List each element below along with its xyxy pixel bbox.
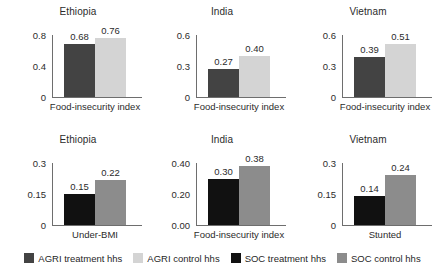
bar: [239, 166, 270, 225]
bar: [64, 194, 95, 225]
panel-title: Vietnam: [298, 134, 438, 145]
legend-item[interactable]: AGRI treatment hhs: [24, 253, 122, 264]
bar: [354, 57, 385, 97]
legend-item[interactable]: SOC control hhs: [337, 253, 421, 264]
y-axis-line: [52, 163, 53, 225]
bar: [385, 175, 416, 225]
chart-panel: Ethiopia00.40.80.680.76Food-insecurity i…: [8, 6, 148, 118]
bar-slot: [239, 163, 270, 225]
y-tick-label: 0.3: [152, 61, 190, 72]
bar: [239, 56, 270, 97]
bar-slot: [64, 35, 95, 97]
bar-value-label: 0.51: [391, 31, 410, 42]
x-axis-label: Under-BMI: [26, 229, 164, 240]
y-tick-label: 0.6: [298, 30, 336, 41]
chart-legend: AGRI treatment hhsAGRI control hhsSOC tr…: [0, 250, 445, 266]
y-axis-line: [52, 35, 53, 97]
x-axis-label: Food-insecurity index: [316, 101, 445, 112]
bar-value-label: 0.22: [101, 167, 120, 178]
legend-swatch-icon: [337, 253, 347, 263]
x-axis-line: [52, 225, 142, 226]
x-axis-label: Stunted: [316, 229, 445, 240]
y-axis-line: [342, 163, 343, 225]
bar-value-label: 0.27: [214, 56, 233, 67]
bar: [208, 179, 239, 226]
x-axis-line: [342, 97, 432, 98]
figure-root: Ethiopia00.40.80.680.76Food-insecurity i…: [0, 0, 445, 279]
bar: [64, 44, 95, 97]
bar-slot: [64, 163, 95, 225]
y-tick-label: 0.15: [298, 189, 336, 200]
y-axis-line: [196, 163, 197, 225]
x-axis-label: Food-insecurity index: [26, 101, 164, 112]
x-axis-line: [196, 97, 286, 98]
y-tick-label: 0.3: [8, 158, 46, 169]
legend-item[interactable]: SOC treatment hhs: [231, 253, 326, 264]
legend-swatch-icon: [24, 253, 34, 263]
y-tick-label: 0.8: [8, 30, 46, 41]
legend-swatch-icon: [133, 253, 143, 263]
chart-panel: Vietnam00.30.60.390.51Food-insecurity in…: [298, 6, 438, 118]
y-tick-label: 0.15: [8, 189, 46, 200]
bar-value-label: 0.15: [70, 181, 89, 192]
legend-label: SOC treatment hhs: [245, 253, 326, 264]
bar-slot: [95, 35, 126, 97]
panel-title: Vietnam: [298, 6, 438, 17]
legend-swatch-icon: [231, 253, 241, 263]
y-tick-label: 0.40: [152, 158, 190, 169]
chart-panel: India0.000.200.400.300.38Food-insecurity…: [152, 134, 292, 246]
bar: [354, 196, 385, 225]
bar-value-label: 0.24: [391, 162, 410, 173]
panel-title: India: [152, 134, 292, 145]
bar: [95, 38, 126, 97]
x-axis-line: [342, 225, 432, 226]
legend-item[interactable]: AGRI control hhs: [133, 253, 219, 264]
bar: [95, 180, 126, 225]
panel-title: Ethiopia: [8, 134, 148, 145]
bar-value-label: 0.30: [214, 166, 233, 177]
chart-panel: Ethiopia00.150.30.150.22Under-BMI: [8, 134, 148, 246]
panel-title: India: [152, 6, 292, 17]
bar-value-label: 0.76: [101, 25, 120, 36]
y-axis-line: [342, 35, 343, 97]
panel-title: Ethiopia: [8, 6, 148, 17]
bar: [385, 44, 416, 97]
bar-value-label: 0.68: [70, 31, 89, 42]
chart-panel: India00.30.60.270.40Food-insecurity inde…: [152, 6, 292, 118]
x-axis-line: [52, 97, 142, 98]
y-tick-label: 0.6: [152, 30, 190, 41]
y-tick-label: 0.3: [298, 158, 336, 169]
x-axis-line: [196, 225, 286, 226]
y-tick-label: 0.3: [298, 61, 336, 72]
bar-slot: [385, 35, 416, 97]
y-axis-line: [196, 35, 197, 97]
legend-label: AGRI control hhs: [147, 253, 219, 264]
chart-panel: Vietnam00.150.30.140.24Stunted: [298, 134, 438, 246]
y-tick-label: 0.20: [152, 189, 190, 200]
x-axis-label: Food-insecurity index: [170, 101, 308, 112]
x-axis-label: Food-insecurity index: [170, 229, 308, 240]
legend-label: SOC control hhs: [351, 253, 421, 264]
bar-value-label: 0.38: [245, 153, 264, 164]
legend-label: AGRI treatment hhs: [38, 253, 122, 264]
y-tick-label: 0.4: [8, 61, 46, 72]
bar: [208, 69, 239, 97]
bar-value-label: 0.39: [360, 44, 379, 55]
bar-value-label: 0.40: [245, 43, 264, 54]
bar-value-label: 0.14: [360, 183, 379, 194]
